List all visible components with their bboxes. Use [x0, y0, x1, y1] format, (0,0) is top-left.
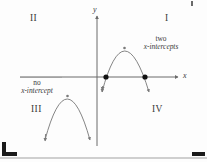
quadrant-label-I: I	[165, 14, 169, 24]
annotation-no-x-intercept: no x-intercept	[8, 79, 66, 95]
vertex-point-quadrant-three	[66, 95, 69, 98]
corner-bracket-bottom-left-horizontal	[2, 152, 17, 156]
parabola-quadrant-one	[102, 51, 149, 92]
parabola-quadrant-three	[45, 99, 90, 140]
tick-mark-top-right	[191, 1, 193, 6]
page-baseline-rule	[0, 157, 207, 159]
x-axis-label: x	[183, 72, 187, 80]
annotation-two-x-intercepts: two x-intercepts	[133, 35, 189, 51]
parabola-quadrant-one-left-arrow	[102, 48, 124, 90]
coordinate-plane-figure: II I III IV y x two x-intercepts no x-in…	[0, 0, 207, 162]
quadrant-label-III: III	[31, 105, 42, 115]
x-intercept-point-left	[103, 74, 108, 79]
vertex-point-quadrant-one	[123, 47, 126, 50]
quadrant-label-IV: IV	[152, 105, 163, 115]
corner-mark-bottom-right	[192, 152, 205, 156]
x-intercept-point-right	[142, 74, 147, 79]
y-axis-label: y	[93, 6, 97, 14]
quadrant-label-II: II	[30, 14, 37, 24]
annotation-no-x-intercept-line2: x-intercept	[8, 87, 66, 95]
parabola-three-left-arm-arrow	[45, 134, 46, 141]
annotation-two-x-intercepts-line2: x-intercepts	[133, 43, 189, 51]
